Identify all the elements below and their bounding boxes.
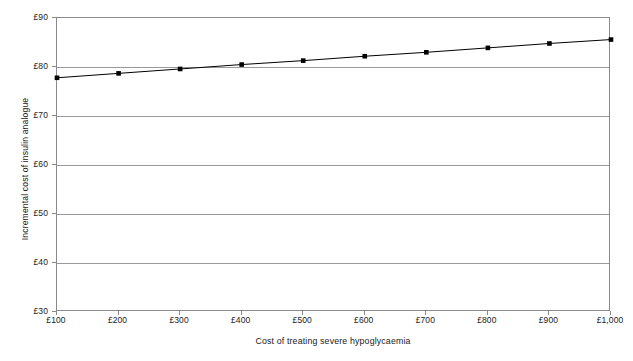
x-axis-tick-mark (364, 311, 365, 315)
data-point-marker (486, 46, 491, 51)
data-point-marker (55, 75, 60, 80)
series-line (57, 40, 611, 78)
y-axis-tick-label: £90 (34, 13, 48, 22)
x-axis-tick-mark (118, 311, 119, 315)
x-axis-tick-label: £200 (108, 315, 127, 325)
x-axis-tick-label: £700 (416, 315, 435, 325)
x-axis-tick-label: £800 (477, 315, 496, 325)
y-axis-tick-label: £40 (34, 258, 48, 267)
y-axis-tick-label: £80 (34, 62, 48, 71)
data-point-marker (239, 62, 244, 67)
x-axis-tick-mark (179, 311, 180, 315)
data-point-marker (424, 50, 429, 55)
data-series (57, 18, 611, 312)
data-point-marker (362, 54, 367, 59)
y-axis-tick-label: £60 (34, 160, 48, 169)
data-point-marker (609, 37, 614, 42)
x-axis-tick-mark (425, 311, 426, 315)
data-point-marker (178, 67, 183, 72)
x-axis-tick-label: £300 (169, 315, 188, 325)
x-axis-tick-label: £100 (46, 315, 65, 325)
x-axis-tick-mark (241, 311, 242, 315)
plot-area (56, 17, 610, 311)
chart-figure: £90£80£70£60£50£40£30 Incremental cost o… (0, 0, 633, 361)
x-axis-tick-label: £600 (354, 315, 373, 325)
y-axis-title: Incremental cost of insulin analogue (20, 69, 30, 269)
x-axis-tick-mark (548, 311, 549, 315)
x-axis-tick-label: £1,000 (597, 315, 624, 325)
x-axis-tick-label: £900 (539, 315, 558, 325)
x-axis-title: Cost of treating severe hypoglycaemia (56, 336, 610, 346)
data-point-marker (547, 41, 552, 46)
data-point-marker (116, 71, 121, 76)
x-axis-tick-mark (610, 311, 611, 315)
x-axis-tick-mark (487, 311, 488, 315)
x-axis-tick-mark (56, 311, 57, 315)
x-axis-tick-mark (302, 311, 303, 315)
x-axis-tick-label: £500 (293, 315, 312, 325)
data-point-marker (301, 58, 306, 63)
y-axis-tick-label: £70 (34, 111, 48, 120)
y-axis-tick-label: £50 (34, 209, 48, 218)
x-axis-tick-label: £400 (231, 315, 250, 325)
